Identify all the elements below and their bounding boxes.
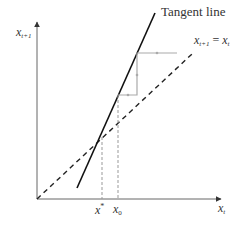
fixed-point-sup: *	[100, 202, 104, 211]
diag-lhs-sub: t+1	[199, 40, 209, 48]
fixed-point-tick-label: x*	[95, 202, 104, 218]
x-axis-label: xt	[218, 201, 225, 216]
initial-sub: 0	[118, 209, 122, 217]
initial-point-tick-label: x0	[113, 202, 122, 217]
tangent-line-label: Tangent line	[161, 4, 225, 20]
diagonal-line	[37, 54, 192, 199]
y-label-sub: t+1	[21, 32, 31, 40]
y-axis-label: xt+1	[16, 25, 32, 40]
diagonal-label: xt+1 = xt	[194, 33, 230, 48]
diag-rhs-sub: t	[228, 40, 230, 48]
x-label-sub: t	[223, 208, 225, 216]
cobweb-path	[118, 53, 177, 95]
diag-eq: =	[210, 33, 223, 47]
